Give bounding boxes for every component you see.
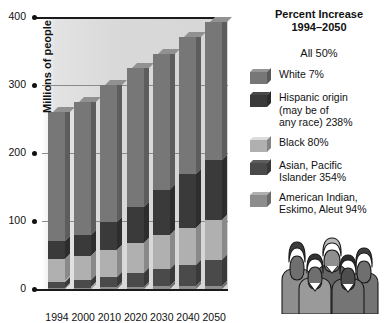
legend-label: White 7% [279,68,324,81]
bar-segment-side [65,107,70,241]
bar-segment [179,228,196,265]
bar-segment [74,288,91,289]
bar-segment [127,243,144,274]
bar-segment-side [170,49,175,191]
bar-segment-side [117,80,122,222]
bar-segment [100,250,117,277]
bar-segment [74,256,91,280]
legend-swatch [250,137,271,152]
bar-segment [179,174,196,228]
bar-segment [100,222,117,250]
legend-title-line2: 1994–2050 [250,21,388,34]
bar-segment [127,68,144,207]
bar-segment [74,280,91,287]
tick-dot-200 [32,151,37,156]
bar-segment [153,190,170,235]
legend-item: American Indian,Eskimo, Aleut 94% [250,191,388,216]
bar-segment [179,286,196,289]
bar-segment [153,235,170,269]
bar-segment [100,287,117,289]
axis-top-line [36,17,228,19]
legend-item: Black 80% [250,136,388,152]
legend-label: Asian, PacificIslander 354% [279,159,346,184]
bar-2050 [205,22,222,289]
bar-segment [205,22,222,160]
y-tick-label: 200 [0,146,26,158]
legend-items: White 7%Hispanic origin(may be ofany rac… [250,68,388,216]
bar-segment [127,273,144,287]
plot-area: 0100200300400 19942000201020202030204020… [42,17,228,289]
x-axis-label-2050: 2050 [199,311,229,323]
bar-2000 [74,102,91,289]
tick-dot-400 [32,15,37,20]
y-tick-label: 300 [0,78,26,90]
group-of-people-illustration [276,226,384,314]
tick-dot-100 [32,219,37,224]
bar-segment [205,220,222,261]
bar-segment [100,277,117,287]
bar-segment [179,265,196,286]
bar-2010 [100,85,117,289]
bar-segment [127,207,144,243]
bar-segment-top [210,17,232,22]
legend-title-line1: Percent Increase [250,8,388,21]
y-tick-label: 0 [0,282,26,294]
bar-segment [127,287,144,289]
y-axis-title: Millions of people [41,20,53,113]
bar-2020 [127,68,144,289]
bar-segment-side [91,97,96,235]
bar-segment-side [196,32,201,174]
legend: Percent Increase 1994–2050 All 50% White… [250,8,388,223]
legend-swatch [250,160,271,175]
y-tick-label: 100 [0,214,26,226]
legend-all-label: All 50% [250,47,388,59]
legend-label: Black 80% [279,136,329,149]
bar-segment [153,286,170,289]
bar-2040 [179,37,196,289]
bar-segment-side [144,63,149,207]
bar-segment-side [170,185,175,235]
legend-item: Hispanic origin(may be ofany race) 238% [250,91,388,129]
bar-segment [48,288,65,289]
bar-segment-side [144,202,149,243]
bar-segment [74,102,91,235]
bar-1994 [48,112,65,289]
legend-swatch [250,69,271,84]
bar-segment [48,259,65,281]
bar-segment [48,112,65,241]
legend-label: American Indian,Eskimo, Aleut 94% [279,191,367,216]
tick-dot-300 [32,83,37,88]
bar-segment [153,269,170,286]
bar-segment [153,54,170,191]
legend-label: Hispanic origin(may be ofany race) 238% [279,91,353,129]
bar-segment [48,241,65,259]
legend-item: Asian, PacificIslander 354% [250,159,388,184]
bar-segment [205,286,222,289]
bar-segment [205,260,222,286]
legend-item: White 7% [250,68,388,84]
legend-swatch [250,92,271,107]
bar-segment-side [222,17,227,160]
bar-segment-side [196,169,201,228]
bar-segment [205,160,222,220]
bar-segment [179,37,196,174]
bar-segment [74,235,91,256]
bar-2030 [153,54,170,289]
y-tick-label: 400 [0,10,26,22]
bar-segment [100,85,117,222]
bar-segment-side [222,155,227,220]
legend-swatch [250,192,271,207]
tick-dot-0 [32,287,37,292]
